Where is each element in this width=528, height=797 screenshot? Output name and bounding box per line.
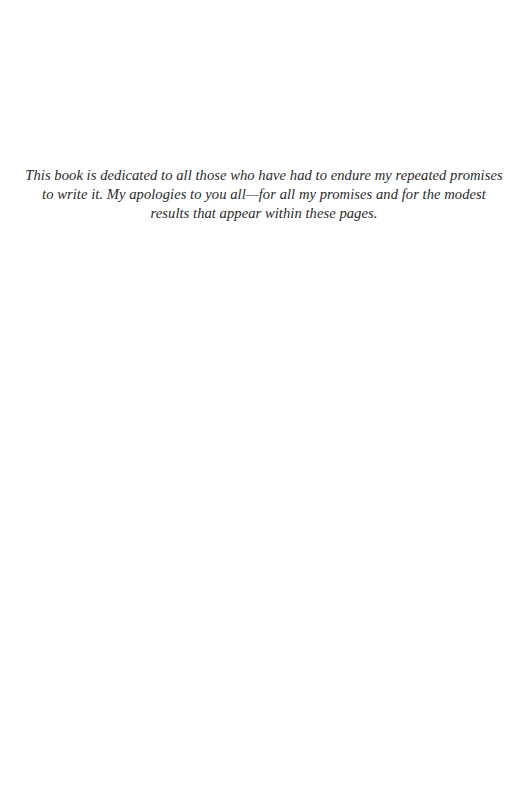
dedication-text: This book is dedicated to all those who … bbox=[24, 166, 504, 224]
book-page: This book is dedicated to all those who … bbox=[0, 0, 528, 797]
